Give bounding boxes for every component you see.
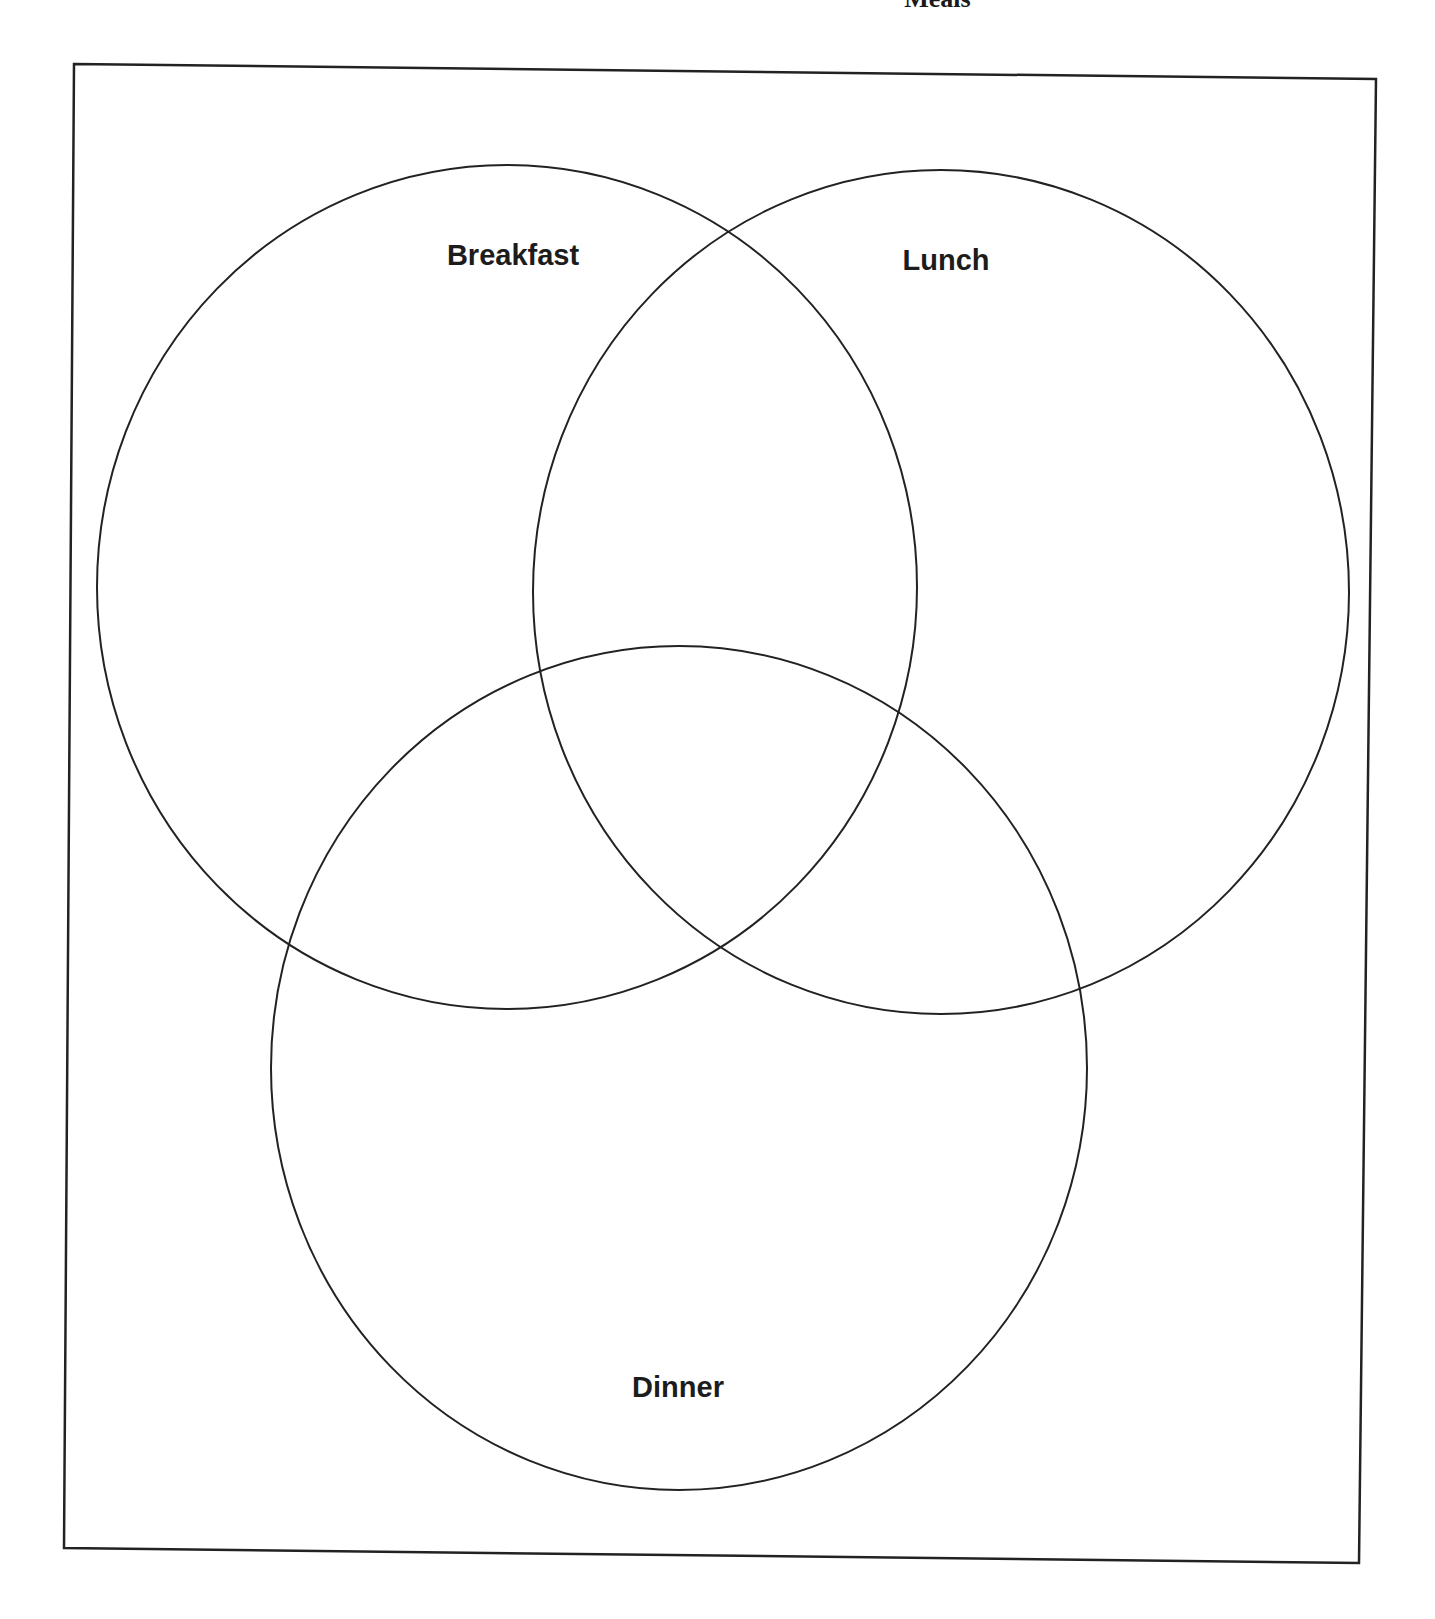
lunch-circle — [533, 170, 1349, 1014]
diagram-frame — [64, 64, 1376, 1563]
breakfast-circle — [97, 165, 917, 1009]
venn-diagram: Breakfast Lunch Dinner — [0, 0, 1435, 1619]
dinner-circle — [271, 646, 1087, 1490]
lunch-label: Lunch — [903, 244, 990, 276]
dinner-label: Dinner — [632, 1371, 724, 1403]
breakfast-label: Breakfast — [447, 239, 580, 271]
